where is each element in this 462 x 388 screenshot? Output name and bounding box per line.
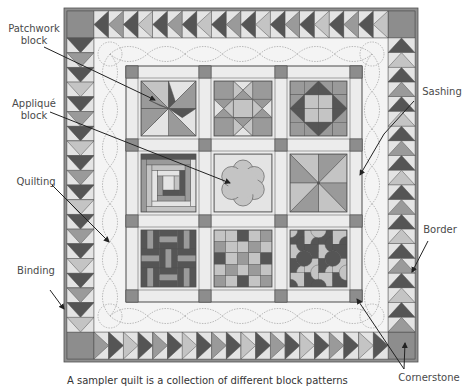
label-patchwork-line2: block bbox=[6, 35, 62, 47]
block-drunkards-path bbox=[282, 222, 355, 295]
label-cornerstone: Cornerstone bbox=[396, 372, 462, 384]
block-log-cabin bbox=[141, 154, 196, 212]
block-rail-fence bbox=[141, 230, 196, 287]
label-applique-line1: Appliqué bbox=[8, 98, 60, 110]
block-shoo-fly bbox=[290, 81, 347, 136]
label-quilting: Quilting bbox=[14, 176, 58, 188]
block-nine-patch-grid bbox=[214, 230, 272, 287]
leader-binding bbox=[50, 290, 64, 309]
block-applique-flower bbox=[214, 154, 272, 212]
block-ohio-star bbox=[214, 81, 272, 136]
label-binding: Binding bbox=[14, 265, 58, 277]
applique-flower-shape bbox=[222, 160, 265, 206]
label-patchwork-block: Patchwork block bbox=[6, 23, 62, 47]
caption-text: A sampler quilt is a collection of diffe… bbox=[67, 375, 348, 386]
label-patchwork-line1: Patchwork bbox=[6, 23, 62, 35]
block-pinwheel-large bbox=[290, 154, 347, 212]
quilt-blocks bbox=[141, 81, 355, 295]
label-sashing: Sashing bbox=[422, 86, 462, 98]
label-border: Border bbox=[422, 224, 458, 236]
block-pinwheel bbox=[141, 81, 196, 136]
label-applique-block: Appliqué block bbox=[8, 98, 60, 122]
label-applique-line2: block bbox=[8, 110, 60, 122]
